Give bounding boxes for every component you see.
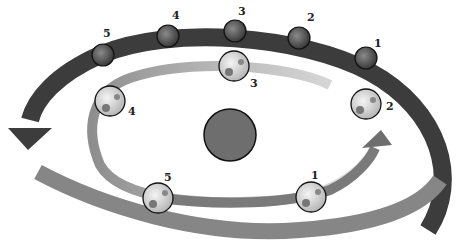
outer-planet-3-label: 3 [238,6,246,17]
outer-planet-2-label: 2 [307,12,315,23]
outer-planet-4 [157,25,179,47]
earth-4 [95,86,125,116]
outer-planet-5-label: 5 [103,28,111,39]
outer-arrowhead-icon [8,128,52,150]
orbit-diagram: 1 2 3 4 5 1 2 3 4 5 [0,0,457,243]
outer-planet-2 [288,27,310,49]
earth-2 [351,89,381,119]
earth-4-label: 4 [128,106,136,117]
outer-planet-1-label: 1 [374,38,382,49]
earth-5 [143,183,173,213]
earth-3-label: 3 [250,78,258,89]
earth-1-label: 1 [311,170,319,181]
outer-planet-5 [92,44,114,66]
outer-planet-3 [224,20,246,42]
earth-2-label: 2 [386,101,394,112]
sun [204,109,256,161]
earth-5-label: 5 [164,172,172,183]
earth-3 [219,51,249,81]
earth-1 [296,182,326,212]
inner-arrowhead-icon [362,130,392,148]
outer-planet-1 [355,47,377,69]
outer-planet-4-label: 4 [172,10,180,21]
